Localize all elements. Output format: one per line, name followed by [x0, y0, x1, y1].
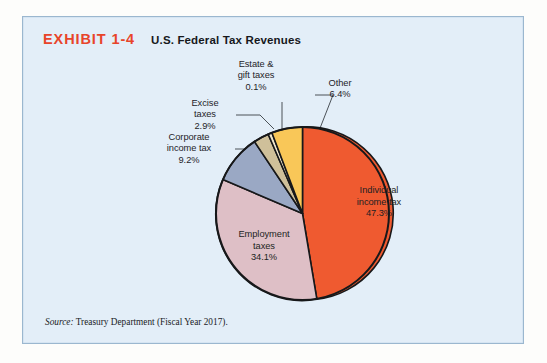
- callout-label-line1: Other: [311, 78, 369, 89]
- callout-label-line2: income tax: [141, 143, 237, 154]
- callout-label-line1: Estate &: [226, 59, 286, 70]
- slice-label-line2: taxes: [215, 241, 313, 253]
- slice-label-employment-taxes: Employment taxes 34.1%: [215, 229, 313, 264]
- callout-excise-taxes: Excise taxes 2.9%: [176, 98, 234, 132]
- page-background: EXHIBIT 1-4 U.S. Federal Tax Revenues: [0, 0, 547, 363]
- slice-label-line1: Employment: [215, 229, 313, 241]
- slice-label-individual-income-tax: Individual income tax 47.3%: [333, 185, 425, 220]
- callout-value-excise-taxes: 2.9%: [176, 121, 234, 132]
- callout-value-estate-and-gift-taxes: 0.1%: [226, 82, 286, 93]
- callout-label-line2: taxes: [176, 109, 234, 120]
- callout-label-line1: Excise: [176, 98, 234, 109]
- slice-value-employment-taxes: 34.1%: [215, 252, 313, 264]
- source-text: Treasury Department (Fiscal Year 2017).: [76, 317, 228, 327]
- slice-label-line2: income tax: [333, 197, 425, 209]
- callout-estate-and-gift-taxes: Estate & gift taxes 0.1%: [226, 59, 286, 93]
- leader-line-excise: [236, 115, 274, 129]
- slice-label-line1: Individual: [333, 185, 425, 197]
- callout-label-line2: gift taxes: [226, 70, 286, 81]
- callout-label-line1: Corporate: [141, 132, 237, 143]
- callout-other: Other 6.4%: [311, 78, 369, 101]
- source-note: Source: Treasury Department (Fiscal Year…: [45, 317, 228, 327]
- source-label: Source:: [45, 317, 74, 327]
- slice-value-individual-income-tax: 47.3%: [333, 208, 425, 220]
- pie-chart: Individual income tax 47.3% Employment t…: [23, 17, 525, 345]
- callout-corporate-income-tax: Corporate income tax 9.2%: [141, 132, 237, 166]
- callout-value-other: 6.4%: [311, 89, 369, 100]
- exhibit-panel: EXHIBIT 1-4 U.S. Federal Tax Revenues: [22, 16, 524, 344]
- callout-value-corporate-income-tax: 9.2%: [141, 155, 237, 166]
